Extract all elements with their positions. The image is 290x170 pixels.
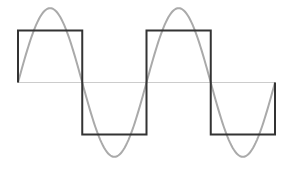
square-sine-wave-chart: [0, 0, 290, 170]
